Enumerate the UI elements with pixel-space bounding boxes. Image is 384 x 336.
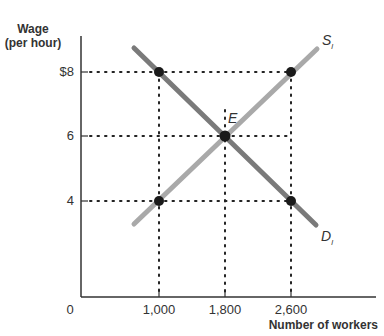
y-tick-4: 4 [44, 193, 74, 208]
x-axis-label: Number of workers [269, 318, 378, 332]
y-tick-6: 6 [44, 128, 74, 143]
demand-label: Dl [321, 228, 333, 247]
x-tick-0: 0 [45, 302, 95, 317]
supply-label: Sl [322, 32, 333, 51]
x-tick-2600: 2,600 [266, 302, 316, 317]
equilibrium-label: E [228, 110, 237, 126]
x-tick-1800: 1,800 [200, 302, 250, 317]
x-tick-1000: 1,000 [134, 302, 184, 317]
y-tick-8: $8 [44, 64, 74, 79]
